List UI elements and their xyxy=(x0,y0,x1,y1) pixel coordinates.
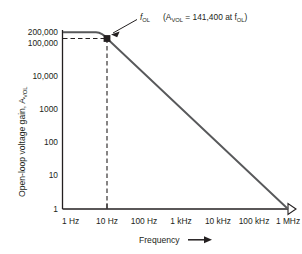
x-tick-label-10hz: 10 Hz xyxy=(96,216,118,226)
y-tick-label-200000: 200,000 xyxy=(28,27,59,37)
x-tick-labels: 1 Hz 10 Hz 100 Hz 1 kHz 10 kHz 100 kHz 1… xyxy=(62,216,300,226)
gain-note-close: ) xyxy=(245,12,248,22)
x-tick-label-1mhz: 1 MHz xyxy=(276,216,300,226)
x-tick-label-1hz: 1 Hz xyxy=(62,216,79,226)
y-tick-label-1: 1 xyxy=(53,204,58,214)
y-tick-label-10: 10 xyxy=(49,170,59,180)
x-axis-title: Frequency xyxy=(139,235,180,245)
gain-note-sub-1: VOL xyxy=(171,17,183,23)
y-tick-label-10000: 10,000 xyxy=(32,71,58,81)
open-loop-gain-bode-plot: fOL (AVOL = 141,400 at fOL) 200,000 100,… xyxy=(0,0,302,254)
x-tick-label-100khz: 100 kHz xyxy=(239,216,270,226)
y-tick-label-1000: 1000 xyxy=(39,104,58,114)
callout-subscript: OL xyxy=(142,17,151,23)
y-axis-title: Open-loop voltage gain, AVOL xyxy=(17,86,28,197)
gain-note-mid: = 141,400 at f xyxy=(183,12,237,22)
x-tick-label-100hz: 100 Hz xyxy=(131,216,158,226)
y-tick-label-100: 100 xyxy=(44,137,58,147)
y-tick-label-100000: 100,000 xyxy=(28,38,59,48)
break-point-marker xyxy=(104,35,111,42)
y-axis-title-main: Open-loop voltage gain, A xyxy=(17,98,27,197)
x-tick-label-1khz: 1 kHz xyxy=(170,216,191,226)
y-axis-title-subscript: VOL xyxy=(22,86,28,98)
x-tick-label-10khz: 10 kHz xyxy=(205,216,231,226)
